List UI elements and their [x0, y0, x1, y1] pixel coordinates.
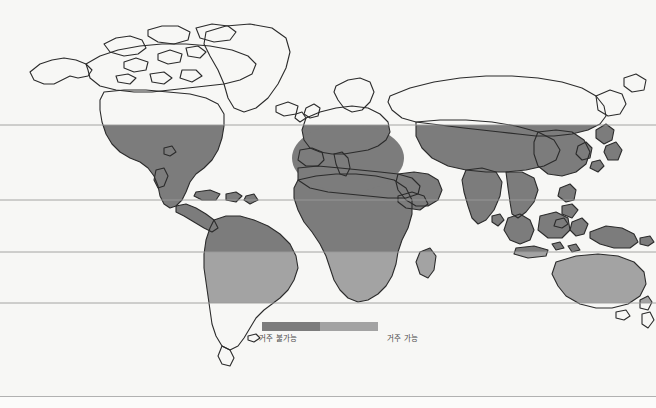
legend-labels: 거주 불가능 거주 가능	[259, 334, 445, 348]
page-bottom-margin	[0, 397, 656, 408]
world-map: 거주 불가능 거주 가능	[0, 0, 656, 398]
legend-label-habitable: 거주 가능	[387, 334, 418, 344]
figure-page: 거주 불가능 거주 가능	[0, 0, 656, 408]
map-legend: 거주 불가능 거주 가능	[262, 322, 452, 356]
legend-swatch-uninhabitable	[262, 322, 320, 331]
legend-gradient-bar	[262, 322, 378, 331]
legend-label-uninhabitable: 거주 불가능	[259, 334, 297, 344]
legend-swatch-habitable	[320, 322, 378, 331]
